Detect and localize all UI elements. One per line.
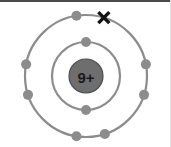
electron-outer-top [71,11,81,21]
electron-inner-bottom [81,105,91,115]
electron-outer-bottom-right [100,129,110,139]
electron-outer-bottom-left [71,131,81,141]
electron-outer-left-upper [21,59,31,69]
electron-outer-right-lower [139,90,149,100]
electron-outer-right-upper [141,59,151,69]
bohr-model-svg: 9+ [0,0,171,147]
atomic-diagram-canvas: 9+ [0,0,171,147]
nucleus-charge-label: 9+ [77,69,94,86]
electron-inner-top [81,37,91,47]
electron-outer-left-lower [23,90,33,100]
